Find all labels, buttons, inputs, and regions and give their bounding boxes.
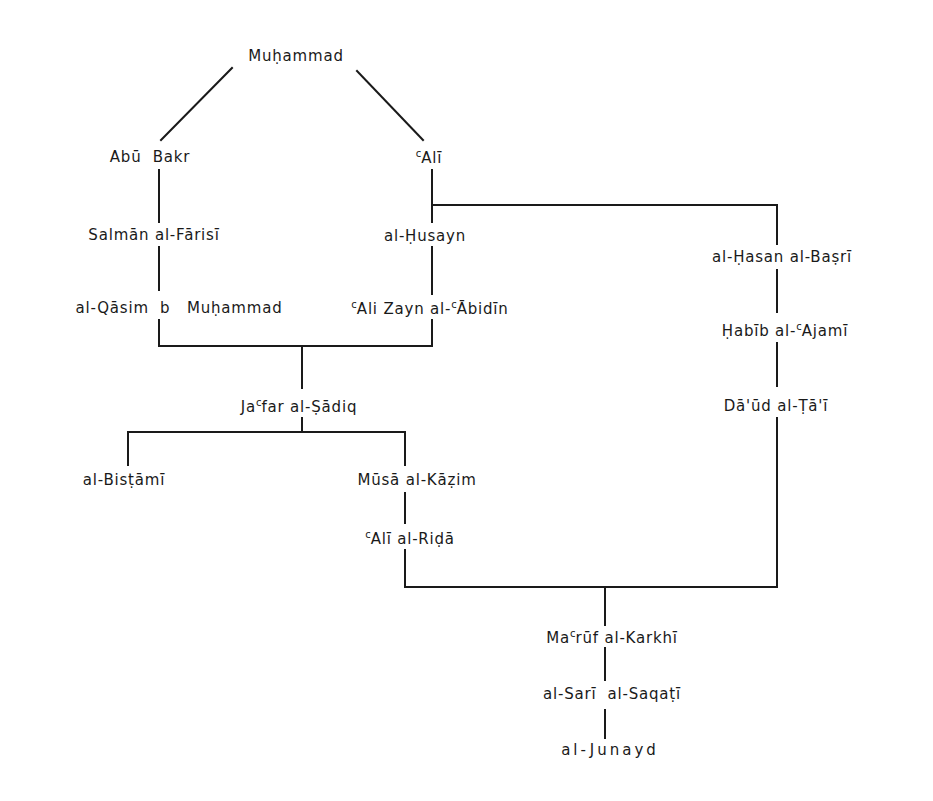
node-ali-zayn-al-abidin: cAli Zayn al-cĀbidīn (351, 296, 508, 318)
edge-muhammad-abubakr (161, 68, 232, 140)
lineage-diagram: Muḥammad Abū Bakr cAlī Salmān al-Fārisī … (0, 0, 933, 801)
node-al-qasim-b-muhammad: al-Qāsim b Muḥammad (76, 299, 283, 317)
node-label: al-Bisṭāmī (83, 471, 165, 489)
node-ali-al-rida: cAlī al-Riḍā (365, 526, 455, 548)
node-label: Muḥammad (248, 47, 343, 65)
node-label: Abū Bakr (110, 148, 190, 166)
node-label: Dā'ūd al-Ṭā'ī (724, 397, 828, 415)
node-label: rūf al-Karkhī (576, 629, 678, 647)
node-label: Ābidīn (457, 300, 509, 318)
node-daud-al-tai: Dā'ūd al-Ṭā'ī (724, 397, 828, 415)
node-label: al-Ḥusayn (384, 227, 466, 245)
node-maruf-al-karkhi: Macrūf al-Karkhī (546, 625, 677, 647)
node-label: al-Ḥasan al-Baṣrī (712, 248, 852, 266)
node-label: Ḥabīb al- (722, 322, 796, 340)
node-label: Ma (546, 629, 570, 647)
node-al-hasan-al-basri: al-Ḥasan al-Baṣrī (712, 248, 852, 266)
node-al-sari-al-saqati: al-Sarī al-Saqaṭī (543, 685, 681, 703)
node-label: far al-Ṣādiq (262, 398, 358, 416)
node-label: Ajamī (802, 322, 848, 340)
node-abu-bakr: Abū Bakr (110, 148, 190, 166)
node-al-junayd: al-Junayd (561, 741, 659, 759)
node-label: al-Qāsim b Muḥammad (76, 299, 283, 317)
node-label: al-Junayd (561, 741, 659, 759)
node-label: Alī (421, 149, 442, 167)
node-al-husayn: al-Ḥusayn (384, 227, 466, 245)
node-salman-al-farisi: Salmān al-Fārisī (88, 226, 219, 244)
node-habib-al-ajami: Ḥabīb al-cAjamī (722, 318, 848, 340)
node-label: Ali Zayn al- (357, 300, 451, 318)
node-label: Salmān al-Fārisī (88, 226, 219, 244)
node-ali: cAlī (416, 145, 443, 167)
node-label: al-Sarī al-Saqaṭī (543, 685, 681, 703)
node-muhammad: Muḥammad (248, 47, 343, 65)
node-musa-al-kazim: Mūsā al-Kāẓim (357, 471, 476, 489)
node-jafar-al-sadiq: Jacfar al-Ṣādiq (241, 394, 357, 416)
node-label: Mūsā al-Kāẓim (357, 471, 476, 489)
node-label: Ja (241, 398, 256, 416)
edge-muhammad-ali (357, 71, 423, 140)
node-al-bistami: al-Bisṭāmī (83, 471, 165, 489)
node-label: Alī al-Riḍā (371, 530, 455, 548)
